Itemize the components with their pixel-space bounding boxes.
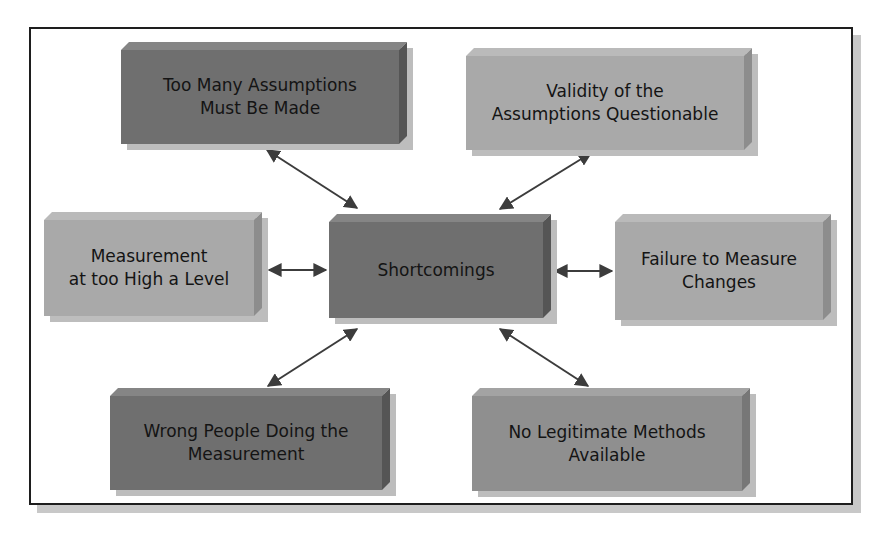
node-failure-to-measure: Failure to Measure Changes — [615, 214, 831, 320]
node-validity-questionable: Validity of the Assumptions Questionable — [466, 48, 752, 150]
node-face: Shortcomings — [329, 222, 543, 318]
node-bevel-top — [121, 42, 407, 50]
arrow-bottom-right — [500, 329, 588, 386]
node-bevel-top — [466, 48, 752, 56]
node-face: Failure to Measure Changes — [615, 222, 823, 320]
node-label-line1: Validity of the — [492, 80, 719, 103]
node-shortcomings-center: Shortcomings — [329, 214, 551, 318]
node-label-line2: Changes — [641, 271, 797, 294]
node-label-line2: at too High a Level — [69, 268, 230, 291]
node-bevel-top — [329, 214, 551, 222]
node-measurement-too-high: Measurement at too High a Level — [44, 212, 262, 316]
arrow-bottom-left — [268, 329, 357, 386]
node-label-line2: Must Be Made — [163, 97, 357, 120]
arrow-top-right — [500, 153, 591, 209]
node-face: Validity of the Assumptions Questionable — [466, 56, 744, 150]
node-face: Too Many Assumptions Must Be Made — [121, 50, 399, 144]
node-label-line1: No Legitimate Methods — [508, 421, 705, 444]
node-label-line1: Measurement — [69, 245, 230, 268]
node-bevel-side — [254, 212, 262, 316]
node-wrong-people: Wrong People Doing the Measurement — [110, 388, 390, 490]
node-bevel-top — [44, 212, 262, 220]
center-label: Shortcomings — [377, 259, 494, 282]
node-face: No Legitimate Methods Available — [472, 396, 742, 491]
node-bevel-top — [472, 388, 750, 396]
node-bevel-side — [399, 42, 407, 144]
node-bevel-side — [744, 48, 752, 150]
node-bevel-top — [110, 388, 390, 396]
node-bevel-side — [823, 214, 831, 320]
node-label-line1: Too Many Assumptions — [163, 74, 357, 97]
node-label-line2: Measurement — [144, 443, 349, 466]
node-face: Measurement at too High a Level — [44, 220, 254, 316]
node-label-line1: Wrong People Doing the — [144, 420, 349, 443]
node-bevel-side — [543, 214, 551, 318]
node-no-legitimate-methods: No Legitimate Methods Available — [472, 388, 750, 491]
node-bevel-top — [615, 214, 831, 222]
node-label-line2: Assumptions Questionable — [492, 103, 719, 126]
node-bevel-side — [382, 388, 390, 490]
arrow-top-left — [267, 150, 357, 208]
node-too-many-assumptions: Too Many Assumptions Must Be Made — [121, 42, 407, 144]
node-bevel-side — [742, 388, 750, 491]
node-label-line2: Available — [508, 444, 705, 467]
node-face: Wrong People Doing the Measurement — [110, 396, 382, 490]
node-label-line1: Failure to Measure — [641, 248, 797, 271]
